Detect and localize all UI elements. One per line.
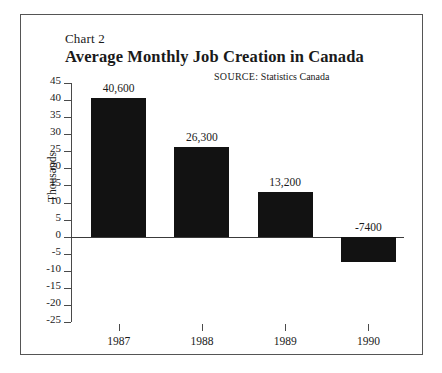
y-tick-label: -10	[33, 263, 61, 274]
y-tick-label: -15	[33, 280, 61, 291]
y-tick-mark	[64, 220, 71, 221]
x-tick-mark	[202, 324, 203, 331]
bar-value-label: -7400	[321, 221, 416, 233]
y-tick-label: 35	[33, 109, 61, 120]
y-tick-label: -5	[33, 246, 61, 257]
y-tick-label: 5	[33, 212, 61, 223]
y-tick-mark	[64, 254, 71, 255]
y-tick-mark	[64, 100, 71, 101]
bar	[174, 147, 229, 237]
y-tick-label: 25	[33, 143, 61, 154]
y-tick-mark	[64, 322, 71, 323]
chart-title: Average Monthly Job Creation in Canada	[65, 47, 364, 67]
x-tick-mark	[368, 324, 369, 331]
y-tick-label: 40	[33, 92, 61, 103]
y-tick-label: 20	[33, 160, 61, 171]
y-tick-label: 45	[33, 75, 61, 86]
y-tick-mark	[64, 83, 71, 84]
bar-value-label: 26,300	[154, 131, 249, 143]
y-tick-mark	[64, 203, 71, 204]
y-axis-line	[71, 83, 72, 322]
y-tick-label: -20	[33, 297, 61, 308]
x-tick-mark	[119, 324, 120, 331]
y-tick-mark	[64, 305, 71, 306]
bar	[341, 237, 396, 262]
plot-area: Thousands 454035302520151050-5-10-15-20-…	[71, 79, 404, 324]
y-tick-label: 10	[33, 195, 61, 206]
y-tick-mark	[64, 185, 71, 186]
y-tick-mark	[64, 151, 71, 152]
y-tick-label: 30	[33, 126, 61, 137]
y-tick-label: -25	[33, 314, 61, 325]
bar-value-label: 13,200	[238, 176, 333, 188]
bar-value-label: 40,600	[71, 82, 166, 94]
y-tick-mark	[64, 117, 71, 118]
y-tick-mark	[64, 237, 71, 238]
x-axis-label: 1988	[172, 335, 232, 347]
chart-number-label: Chart 2	[65, 31, 105, 47]
y-tick-mark	[64, 134, 71, 135]
x-axis-label: 1987	[89, 335, 149, 347]
figure-frame: Chart 2 Average Monthly Job Creation in …	[20, 14, 423, 355]
bar	[258, 192, 313, 237]
x-axis-label: 1989	[255, 335, 315, 347]
x-tick-mark	[285, 324, 286, 331]
y-tick-mark	[64, 168, 71, 169]
x-axis-label: 1990	[338, 335, 398, 347]
y-tick-label: 0	[33, 229, 61, 240]
y-tick-label: 15	[33, 177, 61, 188]
bar	[91, 98, 146, 237]
y-tick-mark	[64, 288, 71, 289]
y-tick-mark	[64, 271, 71, 272]
